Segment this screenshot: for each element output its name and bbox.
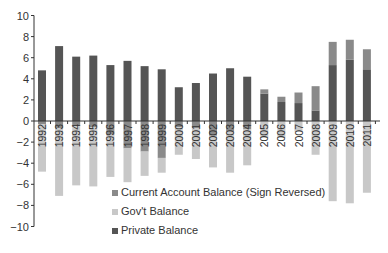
- bar-segment: [329, 42, 337, 65]
- bar-segment: [55, 46, 63, 121]
- sectoral-balances-chart: 1086420−2−4−6−8−101992199319941995199619…: [0, 0, 388, 253]
- bar-segment: [38, 70, 46, 121]
- bar-segment: [295, 103, 303, 121]
- bar-segment: [89, 56, 97, 121]
- bar-segment: [260, 89, 268, 93]
- y-tick-label: −10: [10, 221, 29, 233]
- legend-swatch: [112, 209, 118, 215]
- bar-segment: [158, 69, 166, 121]
- bar-segment: [141, 66, 149, 121]
- x-tick-label: 2009: [327, 124, 339, 148]
- y-tick-label: 6: [23, 52, 29, 64]
- bar-segment: [124, 148, 132, 182]
- bar-segment: [260, 94, 268, 121]
- x-tick-label: 2005: [258, 124, 270, 148]
- x-tick-label: 2011: [361, 124, 373, 147]
- bar-segment: [329, 65, 337, 121]
- bar-segment: [346, 40, 354, 60]
- bar-segment: [141, 152, 149, 176]
- y-tick-label: −2: [16, 136, 29, 148]
- bar-segment: [363, 49, 371, 69]
- y-tick-label: −8: [16, 199, 29, 211]
- x-tick-label: 1999: [156, 124, 168, 148]
- x-tick-label: 2008: [310, 124, 322, 148]
- x-tick-label: 1994: [70, 124, 82, 148]
- x-tick-label: 1992: [36, 124, 48, 148]
- y-tick-label: 2: [23, 94, 29, 106]
- x-tick-label: 1993: [53, 124, 65, 148]
- bar-segment: [72, 57, 80, 121]
- x-tick-label: 2010: [344, 124, 356, 148]
- bar-segment: [277, 97, 285, 102]
- x-tick-label: 2000: [173, 124, 185, 148]
- bar-segment: [226, 68, 234, 121]
- x-tick-label: 2002: [207, 124, 219, 148]
- x-tick-label: 2001: [190, 124, 202, 148]
- x-tick-label: 2003: [224, 124, 236, 148]
- legend-label: Private Balance: [121, 224, 198, 236]
- y-tick-label: 10: [17, 10, 29, 22]
- bar-segment: [312, 86, 320, 110]
- y-tick-label: 4: [23, 73, 29, 85]
- x-tick-label: 1997: [122, 124, 134, 148]
- bar-segment: [175, 87, 183, 121]
- bar-segment: [277, 102, 285, 121]
- y-tick-label: −4: [16, 157, 29, 169]
- legend-label: Gov't Balance: [121, 205, 189, 217]
- bar-segment: [363, 69, 371, 121]
- x-tick-label: 1996: [104, 124, 116, 148]
- y-tick-label: 8: [23, 31, 29, 43]
- bar-segment: [346, 60, 354, 121]
- bar-segment: [312, 110, 320, 121]
- legend-swatch: [112, 228, 118, 234]
- bar-segment: [295, 93, 303, 104]
- legend-label: Current Account Balance (Sign Reversed): [121, 186, 325, 198]
- chart-svg: 1086420−2−4−6−8−101992199319941995199619…: [0, 0, 388, 253]
- bar-segment: [106, 65, 114, 121]
- x-tick-label: 2006: [275, 124, 287, 148]
- x-tick-label: 1995: [87, 124, 99, 148]
- bar-segment: [158, 158, 166, 173]
- x-tick-label: 2007: [293, 124, 305, 148]
- y-tick-label: −6: [16, 178, 29, 190]
- bar-segment: [124, 61, 132, 121]
- x-tick-label: 2004: [241, 124, 253, 148]
- x-tick-label: 1998: [139, 124, 151, 148]
- bar-segment: [192, 83, 200, 121]
- legend-swatch: [112, 190, 118, 196]
- y-tick-label: 0: [23, 115, 29, 127]
- bar-segment: [243, 77, 251, 121]
- bar-segment: [209, 74, 217, 121]
